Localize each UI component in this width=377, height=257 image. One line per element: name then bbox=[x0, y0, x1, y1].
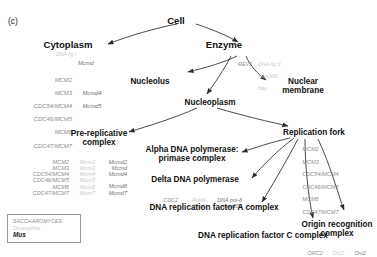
cytoplasm-dro-top: DNA lig I bbox=[56, 52, 76, 58]
node-nucleoplasm: Nucleoplasm bbox=[178, 99, 242, 108]
gene-item: MCM2 bbox=[55, 77, 72, 83]
prereplicative-dro-col: Mcm2 Mcm3 Mcm4 Mcm5 Mcm6 Mcm7 bbox=[69, 159, 95, 197]
legend-item-mus: Mus bbox=[13, 231, 75, 239]
orc-line2: complex bbox=[320, 229, 353, 238]
gene-item: CDC47/MCM7 bbox=[22, 190, 69, 196]
enzyme-dro-list: DNA lig II mus308 hay bbox=[252, 55, 281, 97]
species-legend: SACCHAROMYCES Drosophila Mus bbox=[7, 214, 81, 243]
diagram-canvas: (c) Cell Cytoplasm Enzyme Nucleolus Nucl… bbox=[0, 0, 377, 257]
orc-gene-table: ORC2 Orc2 Orc2 bbox=[303, 238, 371, 257]
gene-item: MCM2 bbox=[302, 146, 318, 152]
orc-line1: Origin recognition bbox=[302, 220, 373, 229]
enzyme-sac-list: REV3 bbox=[232, 55, 252, 73]
prereplicative-sac-col: MCM2 MCM3 CDC54/MCM4 CDC46/MCM5 MCM6 CDC… bbox=[22, 159, 69, 197]
prereplicative-mus-col: Mcmd2 Mcmd Mcmd4 Mcmd6 Mcmd7 bbox=[95, 159, 127, 197]
gene-item: MCM6 bbox=[302, 196, 318, 202]
node-cell: Cell bbox=[156, 16, 196, 26]
gene-item: ORC2 bbox=[303, 250, 327, 256]
orc-mus-col: Orc2 bbox=[349, 250, 371, 256]
prereplicative-gene-table: MCM2 MCM3 CDC54/MCM4 CDC46/MCM5 MCM6 CDC… bbox=[22, 146, 127, 209]
nuclear-membrane-line1: Nuclear bbox=[288, 77, 318, 86]
alpha-pol-line1: Alpha DNA polymerase: bbox=[146, 145, 239, 154]
panel-label: (c) bbox=[8, 16, 18, 26]
gene-item: CDC54/MCM4 bbox=[34, 103, 72, 109]
node-nuclear-membrane: Nuclear membrane bbox=[278, 78, 328, 96]
alpha-pol-line2: primase complex bbox=[159, 154, 226, 163]
gene-item: CDC54/MCM4 bbox=[302, 171, 338, 177]
node-origin-recognition-complex: Origin recognition complex bbox=[300, 221, 374, 239]
gene-item: DNA lig II bbox=[258, 61, 281, 67]
gene-item: mus308 bbox=[258, 73, 277, 79]
replication-fork-sac-list: MCM2 MCM3 CDC54/MCM4 CDC46/MCM5 MCM6 CDC… bbox=[296, 140, 339, 221]
gene-item: MCM3 bbox=[55, 90, 72, 96]
gene-item: Mcmd4 bbox=[82, 90, 101, 96]
gene-item: Mcmd5 bbox=[82, 103, 101, 109]
prereplicative-line1: Pre-replicative bbox=[71, 129, 127, 138]
node-replication-factor-a: DNA replication factor A complex bbox=[144, 204, 284, 213]
legend-item-drosophila: Drosophila bbox=[13, 225, 75, 232]
cytoplasm-mus-top: Mcmd bbox=[78, 60, 94, 66]
gene-item: Orc2 bbox=[327, 250, 349, 256]
cytoplasm-mus-list: Mcmd4 Mcmd5 bbox=[76, 84, 101, 116]
gene-item: CDC46/MCM5 bbox=[34, 116, 72, 122]
gene-item: CDC46/MCM5 bbox=[302, 184, 338, 190]
node-replication-fork: Replication fork bbox=[283, 129, 355, 138]
gene-item: MCM3 bbox=[302, 159, 318, 165]
gene-item: REV3 bbox=[238, 61, 252, 67]
nuclear-membrane-line2: membrane bbox=[282, 86, 323, 95]
orc-sac-col: ORC2 bbox=[303, 250, 327, 256]
node-cytoplasm: Cytoplasm bbox=[32, 40, 104, 50]
gene-item: CDC47/MCM7 bbox=[302, 209, 338, 215]
node-alpha-dna-polymerase: Alpha DNA polymerase: primase complex bbox=[140, 146, 244, 164]
node-enzyme: Enzyme bbox=[198, 40, 250, 50]
gene-item: hay bbox=[258, 85, 267, 91]
node-nucleolus: Nucleolus bbox=[122, 78, 178, 87]
gene-item: Mcmd7 bbox=[95, 190, 127, 196]
node-delta-dna-polymerase: Delta DNA polymerase bbox=[149, 176, 241, 185]
gene-item: Mcm7 bbox=[69, 190, 95, 196]
gene-item: Orc2 bbox=[349, 250, 371, 256]
orc-dro-col: Orc2 bbox=[327, 250, 349, 256]
